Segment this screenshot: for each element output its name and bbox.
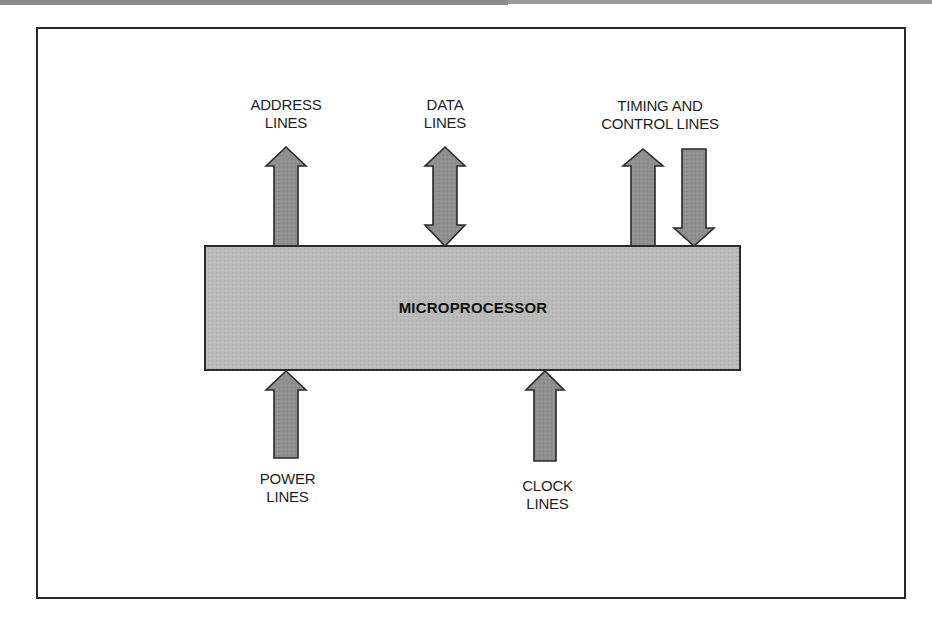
power-lines-arrow-up-icon	[266, 371, 306, 458]
address-lines-arrow-up-icon	[266, 147, 306, 247]
microprocessor-label: MICROPROCESSOR	[205, 299, 741, 316]
address-lines-label: ADDRESS LINES	[236, 96, 336, 132]
power-lines-label: POWER LINES	[240, 470, 335, 506]
timing-lines-arrow-up-icon	[623, 149, 663, 247]
data-lines-label: DATA LINES	[405, 96, 485, 132]
clock-lines-arrow-up-icon	[526, 371, 564, 461]
clock-lines-label: CLOCK LINES	[505, 477, 590, 513]
control-lines-arrow-down-icon	[674, 149, 714, 246]
timing-and-control-lines-label: TIMING AND CONTROL LINES	[585, 97, 735, 133]
data-lines-bidirectional-arrow-icon	[425, 147, 465, 246]
